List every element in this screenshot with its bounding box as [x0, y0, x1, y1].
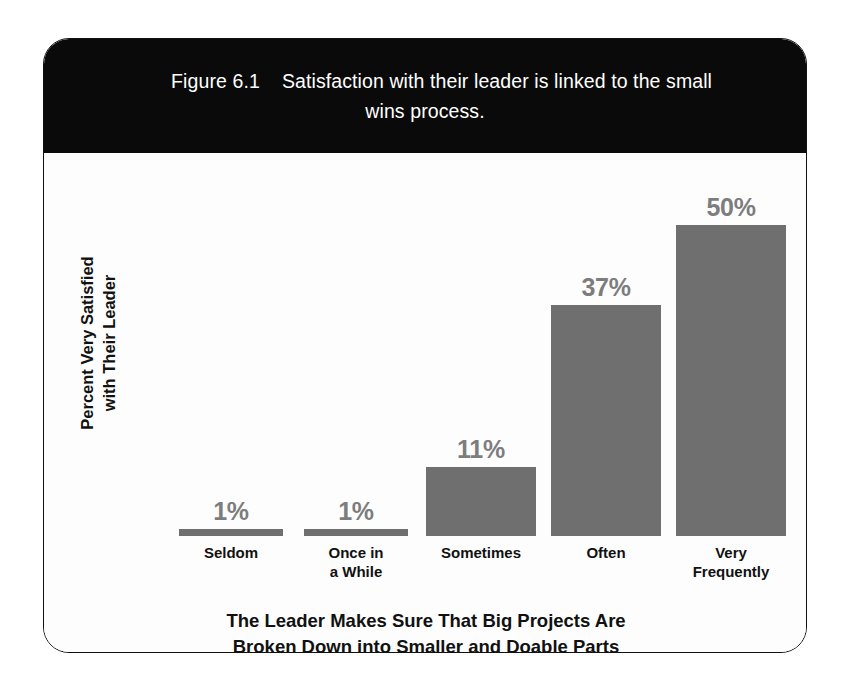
bar-series: 1% 1% 11% 37% 50%	[170, 193, 792, 536]
bar-value-label: 37%	[581, 273, 630, 301]
figure-number: Figure 6.1	[171, 70, 260, 92]
bar-rect[interactable]	[179, 529, 283, 536]
x-axis-tick-labels: Seldom Once in a While Sometimes Often V…	[170, 543, 792, 581]
bar-rect[interactable]	[304, 529, 408, 536]
bar-value-label: 11%	[457, 435, 505, 463]
x-tick-label-sometimes: Sometimes	[420, 543, 542, 581]
x-tick-label-often: Often	[545, 543, 667, 581]
bar-item-seldom[interactable]: 1%	[170, 193, 292, 536]
bar-item-often[interactable]: 37%	[545, 193, 667, 536]
bar-value-label: 1%	[213, 497, 249, 525]
x-axis-label: The Leader Makes Sure That Big Projects …	[104, 608, 748, 653]
x-tick-label-once-in-a-while: Once in a While	[295, 543, 417, 581]
plot-area: Percent Very Satisfied with Their Leader…	[44, 153, 806, 653]
figure-caption: Satisfaction with their leader is linked…	[282, 70, 712, 122]
bar-rect[interactable]	[551, 305, 661, 536]
figure-caption-text: Figure 6.1Satisfaction with their leader…	[138, 38, 712, 156]
bar-value-label: 50%	[706, 193, 755, 221]
bar-item-sometimes[interactable]: 11%	[420, 193, 542, 536]
x-tick-label-seldom: Seldom	[170, 543, 292, 581]
figure-header: Figure 6.1Satisfaction with their leader…	[44, 39, 806, 153]
bar-value-label: 1%	[338, 497, 374, 525]
bar-rect[interactable]	[676, 225, 786, 536]
bar-rect[interactable]	[426, 467, 536, 536]
figure-frame: Figure 6.1Satisfaction with their leader…	[43, 38, 807, 653]
bar-item-very-frequently[interactable]: 50%	[670, 193, 792, 536]
x-tick-label-very-frequently: Very Frequently	[670, 543, 792, 581]
bar-item-once-in-a-while[interactable]: 1%	[295, 193, 417, 536]
y-axis-label: Percent Very Satisfied with Their Leader	[76, 193, 120, 493]
